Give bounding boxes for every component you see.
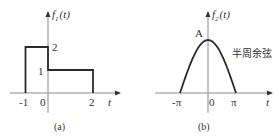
annotation-b: 半周余弦: [232, 47, 272, 59]
ytick-1-a: 1: [38, 65, 44, 77]
caption-a: (a): [54, 121, 65, 133]
caption-b: (b): [198, 121, 210, 133]
rectangular-pulse-curve: [26, 47, 94, 93]
xtick-pi-b: π: [231, 96, 237, 108]
figure-a: f1(t) 2 1 -1 0 2 t (a): [10, 8, 120, 133]
xtick-0-a: 0: [40, 96, 46, 108]
xlabel-b: t: [266, 96, 270, 108]
xtick-0-b: 0: [209, 96, 215, 108]
ytick-2-a: 2: [52, 41, 58, 53]
xtick-2-a: 2: [89, 96, 95, 108]
xtick-negpi-b: -π: [172, 96, 182, 108]
ylabel-a: f1(t): [52, 8, 70, 23]
ylabel-b: f2(t): [212, 8, 230, 23]
figure-b: f2(t) A 半周余弦 -π 0 π t (b): [155, 8, 272, 133]
xtick-neg1-a: -1: [19, 96, 28, 108]
xlabel-a: t: [108, 96, 112, 108]
peak-label-b: A: [195, 27, 203, 39]
diagram-canvas: f1(t) 2 1 -1 0 2 t (a) f2(t) A 半周余弦 -π 0…: [0, 0, 279, 140]
